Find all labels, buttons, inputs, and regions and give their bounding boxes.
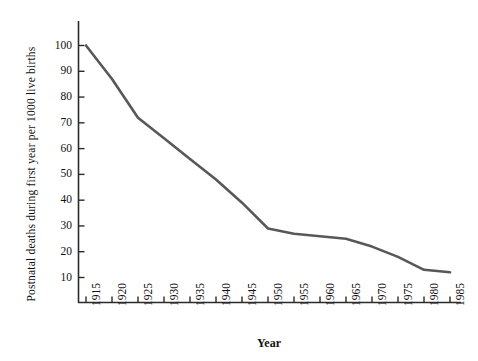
data-series-line — [86, 46, 450, 273]
y-axis-ticks — [79, 46, 85, 278]
x-axis-ticks — [86, 297, 450, 303]
plot-area — [0, 0, 478, 361]
line-chart: Postnatal deaths during first year per 1… — [0, 0, 478, 361]
